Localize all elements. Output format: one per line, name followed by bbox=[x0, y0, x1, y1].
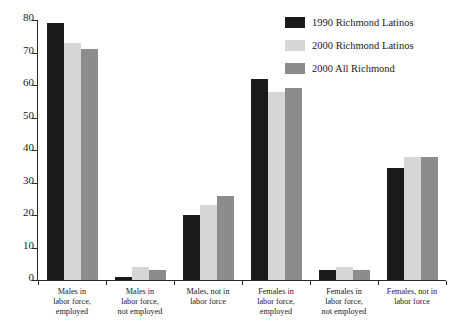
y-axis-tick-mark bbox=[32, 215, 37, 216]
x-axis-tick-mark bbox=[174, 281, 175, 285]
x-axis-category-label: Females inlabor force,employed bbox=[242, 287, 310, 318]
y-axis-tick-label: 60 bbox=[23, 77, 34, 88]
y-axis-tick-label: 40 bbox=[23, 142, 34, 153]
bar-group bbox=[106, 20, 174, 280]
x-axis-tick-mark bbox=[38, 281, 39, 285]
bar bbox=[64, 43, 81, 280]
bar bbox=[268, 92, 285, 281]
category-label-line: Females, not in bbox=[378, 287, 446, 297]
bar bbox=[421, 157, 438, 281]
chart-legend: 1990 Richmond Latinos2000 Richmond Latin… bbox=[285, 16, 414, 85]
bar-chart: 01020304050607080 Males inlabor force,em… bbox=[0, 0, 452, 331]
category-label-line: Males in bbox=[38, 287, 106, 297]
bar bbox=[47, 23, 64, 280]
bar bbox=[217, 196, 234, 281]
x-axis-tick-mark bbox=[446, 281, 447, 285]
bar bbox=[336, 267, 353, 280]
y-axis-tick-label: 70 bbox=[23, 45, 34, 56]
bar-group bbox=[38, 20, 106, 280]
y-axis-tick-mark bbox=[32, 183, 37, 184]
x-axis-category-label: Males, not inlabor force bbox=[174, 287, 242, 307]
x-axis-tick-mark bbox=[378, 281, 379, 285]
bar bbox=[115, 277, 132, 280]
y-axis-tick-label: 10 bbox=[23, 240, 34, 251]
x-axis-category-label: Males inlabor force,employed bbox=[38, 287, 106, 318]
x-axis-category-label: Males inlabor force,not employed bbox=[106, 287, 174, 318]
category-label-line: not employed bbox=[106, 307, 174, 317]
legend-swatch-icon bbox=[285, 40, 305, 51]
legend-item-label: 2000 All Richmond bbox=[312, 63, 395, 74]
category-label-line: Males in bbox=[106, 287, 174, 297]
bar bbox=[353, 270, 370, 280]
category-label-line: employed bbox=[38, 307, 106, 317]
bar bbox=[132, 267, 149, 280]
bar bbox=[319, 270, 336, 280]
category-label-line: Females in bbox=[242, 287, 310, 297]
category-label-line: Females in bbox=[310, 287, 378, 297]
x-axis-tick-mark bbox=[310, 281, 311, 285]
category-label-line: not employed bbox=[310, 307, 378, 317]
legend-item: 1990 Richmond Latinos bbox=[285, 16, 414, 28]
category-label-line: employed bbox=[242, 307, 310, 317]
legend-item-label: 1990 Richmond Latinos bbox=[312, 17, 414, 28]
y-axis-tick-mark bbox=[32, 118, 37, 119]
y-axis-tick-mark bbox=[32, 248, 37, 249]
bar bbox=[285, 88, 302, 280]
legend-swatch-icon bbox=[285, 17, 305, 28]
bar bbox=[149, 270, 166, 280]
y-axis-tick-mark bbox=[32, 53, 37, 54]
x-axis-tick-mark bbox=[242, 281, 243, 285]
y-axis-tick-mark bbox=[32, 85, 37, 86]
x-axis-category-label: Females, not inlabor force bbox=[378, 287, 446, 307]
bar bbox=[404, 157, 421, 281]
y-axis-tick-mark bbox=[32, 150, 37, 151]
category-label-line: labor force, bbox=[38, 297, 106, 307]
x-axis-category-label: Females inlabor force,not employed bbox=[310, 287, 378, 318]
bar bbox=[183, 215, 200, 280]
category-label-line: labor force, bbox=[106, 297, 174, 307]
bar bbox=[251, 79, 268, 281]
x-axis-tick-mark bbox=[106, 281, 107, 285]
category-label-line: labor force bbox=[174, 297, 242, 307]
bar bbox=[200, 205, 217, 280]
y-axis-tick-label: 20 bbox=[23, 207, 34, 218]
category-label-line: labor force bbox=[378, 297, 446, 307]
legend-item-label: 2000 Richmond Latinos bbox=[312, 40, 414, 51]
category-label-line: labor force, bbox=[310, 297, 378, 307]
legend-swatch-icon bbox=[285, 63, 305, 74]
category-label-line: labor force, bbox=[242, 297, 310, 307]
y-axis-tick-mark bbox=[32, 280, 37, 281]
bar bbox=[81, 49, 98, 280]
bar bbox=[387, 168, 404, 280]
legend-item: 2000 Richmond Latinos bbox=[285, 39, 414, 51]
y-axis-tick-label: 80 bbox=[23, 12, 34, 23]
y-axis-tick-label: 50 bbox=[23, 110, 34, 121]
y-axis-tick-label: 0 bbox=[29, 272, 35, 283]
bar-group bbox=[174, 20, 242, 280]
legend-item: 2000 All Richmond bbox=[285, 62, 414, 74]
y-axis-tick-label: 30 bbox=[23, 175, 34, 186]
category-label-line: Males, not in bbox=[174, 287, 242, 297]
y-axis-tick-mark bbox=[32, 20, 37, 21]
